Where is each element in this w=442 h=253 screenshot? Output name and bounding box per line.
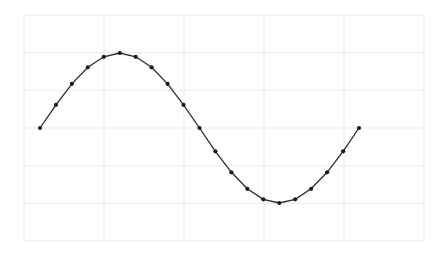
data-point — [150, 65, 154, 69]
data-point — [341, 149, 345, 153]
data-point — [213, 149, 217, 153]
data-point — [54, 103, 58, 107]
data-point — [229, 170, 233, 174]
data-point — [102, 55, 106, 59]
data-point — [166, 82, 170, 86]
data-point — [197, 126, 201, 130]
data-point — [70, 82, 74, 86]
line-chart — [0, 0, 442, 253]
data-point — [325, 170, 329, 174]
data-point — [277, 201, 281, 205]
data-point — [245, 187, 249, 191]
data-point — [357, 126, 361, 130]
data-point — [309, 187, 313, 191]
data-point — [293, 197, 297, 201]
data-point — [86, 65, 90, 69]
data-point — [118, 51, 122, 55]
data-point — [261, 197, 265, 201]
grid-lines — [24, 15, 424, 241]
data-point — [181, 103, 185, 107]
data-point — [38, 126, 42, 130]
data-point — [134, 55, 138, 59]
